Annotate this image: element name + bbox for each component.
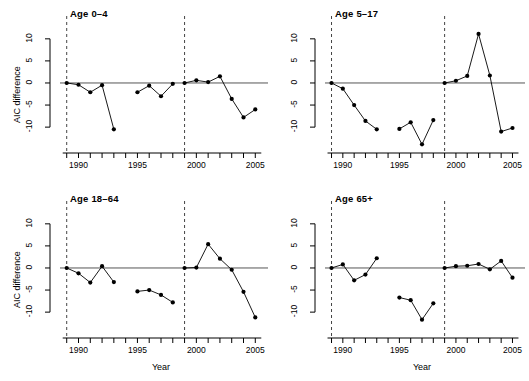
- data-point-marker: [329, 266, 333, 270]
- x-axis-tick-label: 2005: [497, 160, 527, 170]
- data-point-marker: [218, 74, 222, 78]
- x-axis-tick-label: 1995: [384, 345, 414, 355]
- data-point-marker: [510, 126, 514, 130]
- data-point-marker: [454, 264, 458, 268]
- x-axis-tick-label: 1995: [122, 160, 152, 170]
- data-point-marker: [454, 79, 458, 83]
- data-point-marker: [147, 84, 151, 88]
- panel-title: Age 5–17: [335, 8, 378, 19]
- panel-title: Age 65+: [335, 193, 373, 204]
- data-point-marker: [218, 257, 222, 261]
- y-axis-tick-label: 10: [24, 212, 34, 234]
- data-point-marker: [431, 118, 435, 122]
- data-point-marker: [112, 127, 116, 131]
- data-point-marker: [230, 268, 234, 272]
- data-point-marker: [159, 94, 163, 98]
- series-line-segment: [185, 76, 256, 117]
- y-axis-tick-label: 0: [24, 71, 34, 93]
- x-axis-tick-label: 1990: [64, 160, 94, 170]
- panel-plot-area: [0, 0, 529, 381]
- x-axis-label: Year: [52, 362, 270, 372]
- data-point-marker: [352, 278, 356, 282]
- data-point-marker: [241, 115, 245, 119]
- y-axis-tick-label: 5: [289, 234, 299, 256]
- data-point-marker: [147, 288, 151, 292]
- data-point-marker: [194, 78, 198, 82]
- x-axis-label: Year: [317, 362, 527, 372]
- data-point-marker: [397, 295, 401, 299]
- data-point-marker: [135, 90, 139, 94]
- panel-title: Age 0–4: [70, 8, 108, 19]
- series-line-segment: [399, 120, 433, 144]
- y-axis-tick-label: 10: [289, 27, 299, 49]
- data-point-marker: [465, 74, 469, 78]
- x-axis-tick-label: 1990: [328, 345, 358, 355]
- panel-plot-area: [0, 0, 529, 381]
- figure-canvas: Age 0–4-10-505101990199520002005AIC diff…: [0, 0, 529, 381]
- data-point-marker: [352, 103, 356, 107]
- x-axis-tick-label: 2005: [240, 345, 270, 355]
- data-point-marker: [420, 142, 424, 146]
- x-axis-tick-label: 2005: [240, 160, 270, 170]
- series-line-segment: [332, 83, 377, 129]
- data-point-marker: [171, 300, 175, 304]
- data-point-marker: [171, 82, 175, 86]
- data-point-marker: [76, 271, 80, 275]
- data-point-marker: [476, 32, 480, 36]
- series-line-segment: [137, 290, 172, 302]
- data-point-marker: [76, 83, 80, 87]
- y-axis-tick-label: 0: [24, 256, 34, 278]
- data-point-marker: [135, 289, 139, 293]
- data-point-marker: [375, 127, 379, 131]
- data-point-marker: [443, 266, 447, 270]
- data-point-marker: [420, 318, 424, 322]
- x-axis-tick-label: 1990: [328, 160, 358, 170]
- data-point-marker: [88, 90, 92, 94]
- data-point-marker: [159, 293, 163, 297]
- y-axis-tick-label: -5: [24, 278, 34, 300]
- data-point-marker: [363, 273, 367, 277]
- data-point-marker: [230, 97, 234, 101]
- y-axis-tick-label: 5: [289, 49, 299, 71]
- data-point-marker: [65, 81, 69, 85]
- y-axis-tick-label: -5: [24, 93, 34, 115]
- data-point-marker: [488, 73, 492, 77]
- series-line-segment: [445, 261, 513, 278]
- y-axis-label: AIC difference: [12, 66, 22, 123]
- series-line-segment: [399, 298, 433, 320]
- data-point-marker: [499, 259, 503, 263]
- y-axis-tick-label: 10: [289, 212, 299, 234]
- data-point-marker: [182, 266, 186, 270]
- panel-plot-area: [0, 0, 529, 381]
- panel-title: Age 18–64: [70, 193, 119, 204]
- y-axis-tick-label: 5: [24, 49, 34, 71]
- y-axis-tick-label: 0: [289, 71, 299, 93]
- x-axis-tick-label: 2000: [181, 345, 211, 355]
- x-axis-tick-label: 2000: [441, 160, 471, 170]
- series-line-segment: [67, 83, 114, 129]
- data-point-marker: [100, 83, 104, 87]
- data-point-marker: [375, 256, 379, 260]
- y-axis-tick-label: -5: [289, 93, 299, 115]
- y-axis-tick-label: -5: [289, 278, 299, 300]
- y-axis-tick-label: 5: [24, 234, 34, 256]
- y-axis-tick-label: 10: [24, 27, 34, 49]
- y-axis-tick-label: -10: [289, 300, 299, 322]
- data-point-marker: [241, 290, 245, 294]
- data-point-marker: [65, 266, 69, 270]
- data-point-marker: [206, 242, 210, 246]
- data-point-marker: [100, 264, 104, 268]
- data-point-marker: [363, 119, 367, 123]
- panel-plot-area: [0, 0, 529, 381]
- data-point-marker: [409, 298, 413, 302]
- x-axis-tick-label: 2000: [441, 345, 471, 355]
- x-axis-tick-label: 1990: [64, 345, 94, 355]
- data-point-marker: [206, 80, 210, 84]
- x-axis-tick-label: 1995: [384, 160, 414, 170]
- y-axis-tick-label: -10: [289, 115, 299, 137]
- data-point-marker: [397, 127, 401, 131]
- x-axis-tick-label: 2005: [497, 345, 527, 355]
- y-axis-tick-label: -10: [24, 300, 34, 322]
- data-point-marker: [341, 87, 345, 91]
- data-point-marker: [476, 262, 480, 266]
